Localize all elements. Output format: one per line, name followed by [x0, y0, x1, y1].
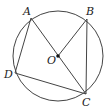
label-a: A — [22, 5, 31, 18]
label-o: O — [47, 54, 56, 67]
circle-diagram: A B C D O — [0, 0, 111, 109]
segment-dc — [15, 73, 86, 94]
segment-ob — [58, 19, 87, 56]
label-c: C — [82, 96, 91, 109]
center-point-o — [56, 54, 60, 58]
label-d: D — [3, 68, 13, 81]
label-b: B — [85, 5, 94, 18]
segment-bc — [86, 19, 87, 94]
segment-ad — [15, 18, 31, 73]
